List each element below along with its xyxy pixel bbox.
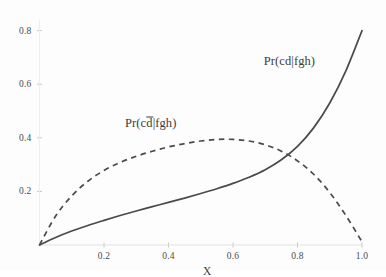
- series-label-dashed: Pr(cd|fgh): [125, 116, 176, 131]
- y-tick-label: 0.8: [0, 26, 32, 36]
- y-tick-label: 0.6: [0, 79, 32, 89]
- y-axis-ticks: [37, 20, 42, 245]
- series-label-dashed-overbar-char: d: [146, 116, 152, 131]
- series-line-dashed: [40, 139, 363, 245]
- series-label-dashed-prefix: Pr(c: [125, 116, 146, 130]
- x-axis-ticks: [40, 243, 363, 248]
- x-tick-label: 0.8: [291, 251, 303, 261]
- x-tick-label: 0.4: [162, 251, 174, 261]
- y-tick-label: 0.2: [0, 186, 32, 196]
- x-tick-label: 0.6: [227, 251, 239, 261]
- series-label-solid: Pr(cd|fgh): [264, 54, 315, 69]
- y-tick-label: 0.4: [0, 133, 32, 143]
- x-tick-label: 1.0: [356, 251, 368, 261]
- x-tick-label: 0.2: [98, 251, 110, 261]
- series-label-dashed-suffix: |fgh): [153, 116, 177, 130]
- x-axis-title: X: [203, 265, 211, 277]
